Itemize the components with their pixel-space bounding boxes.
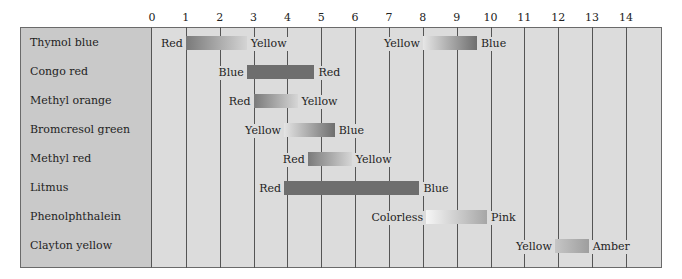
gridline: [389, 27, 390, 268]
gridline: [491, 27, 492, 268]
low-ph-color-label: Blue: [218, 66, 245, 80]
x-tick-label: 8: [419, 11, 426, 24]
transition-range-bar: [247, 65, 315, 79]
indicator-name: Litmus: [30, 181, 68, 195]
x-tick-label: 3: [250, 11, 257, 24]
indicator-name: Phenolphthalein: [30, 210, 121, 224]
gridline: [355, 27, 356, 268]
indicator-name: Methyl red: [30, 152, 91, 166]
indicator-name: Congo red: [30, 65, 88, 79]
high-ph-color-label: Blue: [480, 37, 507, 51]
high-ph-color-label: Yellow: [301, 95, 339, 109]
x-tick-label: 12: [551, 11, 565, 24]
gridline: [220, 27, 221, 268]
ph-indicator-chart: 01234567891011121314 Thymol blueRedYello…: [0, 0, 682, 279]
gridline: [186, 27, 187, 268]
low-ph-color-label: Yellow: [515, 240, 553, 254]
high-ph-color-label: Red: [317, 66, 341, 80]
x-tick-label: 11: [517, 11, 531, 24]
x-tick-label: 1: [182, 11, 189, 24]
gridline: [254, 27, 255, 268]
high-ph-color-label: Yellow: [355, 153, 393, 167]
indicator-name: Methyl orange: [30, 94, 112, 108]
x-tick-label: 10: [484, 11, 498, 24]
x-tick-label: 5: [318, 11, 325, 24]
transition-range-bar: [426, 210, 487, 224]
high-ph-color-label: Blue: [338, 124, 365, 138]
gridline: [423, 27, 424, 268]
low-ph-color-label: Red: [258, 182, 282, 196]
low-ph-color-label: Colorless: [370, 211, 424, 225]
transition-range-bar: [284, 181, 419, 195]
indicator-name: Bromcresol green: [30, 123, 130, 137]
indicator-name: Thymol blue: [30, 36, 99, 50]
gridline: [524, 27, 525, 268]
low-ph-color-label: Red: [282, 153, 306, 167]
low-ph-color-label: Yellow: [244, 124, 282, 138]
low-ph-color-label: Red: [228, 95, 252, 109]
x-tick-label: 9: [453, 11, 460, 24]
high-ph-color-label: Pink: [490, 211, 517, 225]
transition-range-bar: [423, 36, 477, 50]
transition-range-bar: [254, 94, 298, 108]
high-ph-color-label: Yellow: [250, 37, 288, 51]
x-tick-label: 0: [149, 11, 156, 24]
x-tick-label: 13: [585, 11, 599, 24]
low-ph-color-label: Yellow: [383, 37, 421, 51]
gridline: [457, 27, 458, 268]
gridline: [592, 27, 593, 268]
high-ph-color-label: Amber: [592, 240, 631, 254]
x-tick-label: 7: [385, 11, 392, 24]
transition-range-bar: [186, 36, 247, 50]
low-ph-color-label: Red: [160, 37, 184, 51]
transition-range-bar: [555, 239, 589, 253]
high-ph-color-label: Blue: [422, 182, 449, 196]
x-tick-label: 2: [216, 11, 223, 24]
x-tick-label: 6: [352, 11, 359, 24]
transition-range-bar: [308, 152, 352, 166]
x-tick-label: 4: [284, 11, 291, 24]
indicator-name: Clayton yellow: [30, 239, 112, 253]
x-tick-label: 14: [619, 11, 633, 24]
gridline: [626, 27, 627, 268]
gridline: [321, 27, 322, 268]
gridline: [287, 27, 288, 268]
gridline: [558, 27, 559, 268]
transition-range-bar: [284, 123, 335, 137]
indicator-label-column: [20, 27, 152, 268]
